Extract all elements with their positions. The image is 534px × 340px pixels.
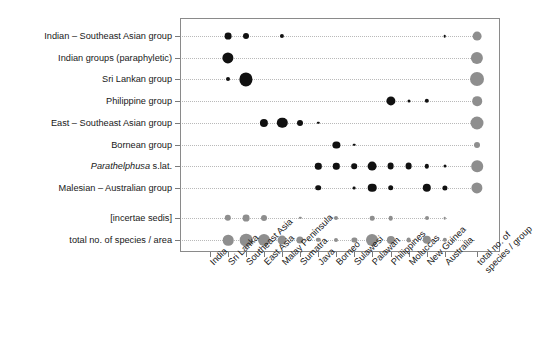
data-dot bbox=[368, 184, 377, 193]
grid-line-4 bbox=[182, 123, 475, 124]
data-dot bbox=[405, 163, 412, 170]
row-tick-9 bbox=[175, 240, 180, 241]
total-dot bbox=[425, 216, 429, 220]
row-label-6: Parathelphusa s.lat. bbox=[91, 161, 172, 171]
row-label-7: Malesian – Australian group bbox=[59, 183, 172, 193]
data-dot bbox=[387, 163, 394, 170]
data-dot bbox=[352, 163, 358, 169]
data-dot bbox=[443, 165, 446, 168]
total-dot bbox=[471, 160, 483, 172]
row-tick-2 bbox=[175, 79, 180, 80]
total-dot bbox=[334, 238, 338, 242]
data-dot bbox=[226, 77, 230, 81]
row-tick-1 bbox=[175, 58, 180, 59]
grid-line-3 bbox=[182, 101, 475, 102]
total-dot bbox=[470, 72, 484, 86]
data-dot bbox=[388, 185, 394, 191]
total-dot bbox=[471, 116, 484, 129]
total-dot bbox=[443, 217, 446, 220]
row-tick-6 bbox=[175, 166, 180, 167]
total-dot bbox=[261, 215, 267, 221]
row-tick-7 bbox=[175, 188, 180, 189]
row-tick-3 bbox=[175, 101, 180, 102]
row-tick-0 bbox=[175, 36, 180, 37]
row-tick-4 bbox=[175, 123, 180, 124]
data-dot bbox=[297, 120, 303, 126]
data-dot bbox=[353, 143, 356, 146]
total-dot bbox=[223, 235, 234, 246]
data-dot bbox=[407, 100, 410, 103]
grid-line-5 bbox=[182, 145, 475, 146]
total-dot bbox=[370, 216, 375, 221]
total-dot bbox=[474, 142, 480, 148]
row-label-3: Philippine group bbox=[106, 96, 172, 106]
data-dot bbox=[368, 162, 377, 171]
total-dot bbox=[243, 215, 250, 222]
total-dot bbox=[472, 96, 482, 106]
row-label-4: East – Southeast Asian group bbox=[51, 118, 172, 128]
row-tick-8 bbox=[175, 218, 180, 219]
data-dot bbox=[443, 35, 446, 38]
data-dot bbox=[243, 33, 249, 39]
grid-line-8 bbox=[182, 218, 447, 219]
row-tick-5 bbox=[175, 145, 180, 146]
data-dot bbox=[353, 186, 356, 189]
grid-line-7 bbox=[182, 188, 475, 189]
row-label-5: Bornean group bbox=[111, 140, 172, 150]
total-dot bbox=[388, 216, 393, 221]
total-dot bbox=[473, 32, 482, 41]
grid-line-6 bbox=[182, 166, 475, 167]
row-label-2: Sri Lankan group bbox=[102, 74, 172, 84]
row-label-9: total no. of species / area bbox=[69, 235, 172, 245]
total-dot bbox=[334, 216, 338, 220]
row-label-8: [incertae sedis] bbox=[110, 213, 172, 223]
row-label-1: Indian groups (paraphyletic) bbox=[58, 53, 172, 63]
data-dot bbox=[316, 185, 322, 191]
row-label-0: Indian – Southeast Asian group bbox=[44, 31, 172, 41]
data-dot bbox=[225, 33, 232, 40]
